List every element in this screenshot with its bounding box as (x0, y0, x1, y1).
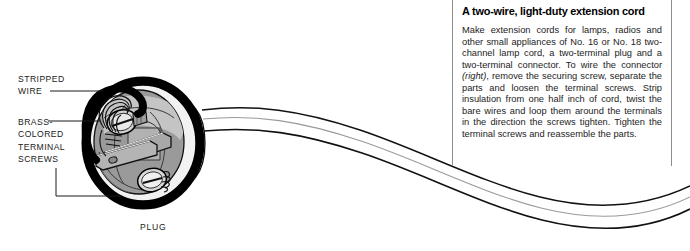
plug-assembly (86, 81, 205, 205)
caption-plug: PLUG (140, 222, 167, 232)
callout-label-stripped-wire: STRIPPED WIRE (18, 73, 65, 98)
callout-label-brass-screws: BRASS- COLORED TERMINAL SCREWS (18, 116, 65, 165)
textbox-title: A two-wire, light-duty extension cord (462, 0, 654, 18)
textbox-body-part-1: Make extension cords for lamps, radios a… (462, 25, 662, 70)
sidebar-textbox: A two-wire, light-duty extension cord Ma… (452, 0, 672, 166)
textbox-body-italic: (right) (462, 71, 486, 81)
textbox-body-part-2: , remove the securing screw, separate th… (462, 71, 662, 139)
textbox-body: Make extension cords for lamps, radios a… (462, 18, 662, 140)
